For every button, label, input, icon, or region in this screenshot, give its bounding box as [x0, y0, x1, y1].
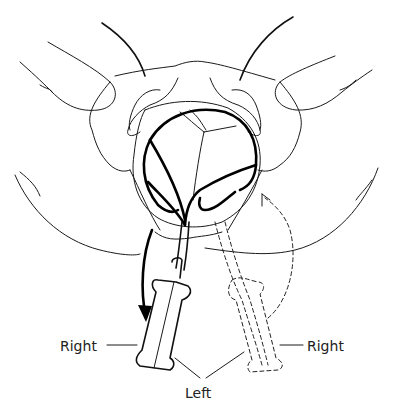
- forceps-handle-solid: [136, 222, 190, 370]
- pelvis-outline: [15, 61, 378, 255]
- forceps-handle-dashed: [215, 222, 282, 372]
- label-left: Left: [185, 385, 212, 401]
- label-right-handle-right: Right: [307, 338, 344, 354]
- right-thigh: [240, 17, 372, 110]
- label-right-handle-left: Right: [60, 338, 97, 354]
- rotation-arrow-dashed: [262, 194, 293, 318]
- forceps-illustration: Right Right Left: [0, 0, 393, 419]
- forceps-blades: [144, 110, 256, 225]
- left-thigh: [20, 23, 145, 110]
- rotation-arrow-solid: [138, 230, 152, 322]
